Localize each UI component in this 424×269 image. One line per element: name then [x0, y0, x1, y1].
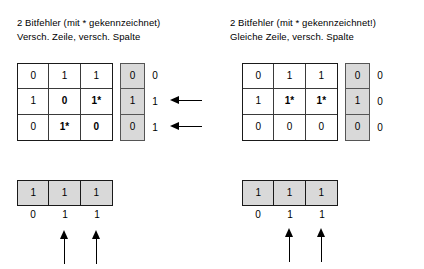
- matrix-cell-error: 1*: [81, 89, 112, 114]
- data-matrix-right: 0 1 1 1 1* 1* 0 0 0: [242, 63, 338, 141]
- column-parity-cell: 1: [274, 181, 305, 205]
- row-parity-computed-value: 1: [148, 89, 162, 115]
- row-parity-cell: 0: [121, 115, 144, 140]
- row-parity-computed-value: 0: [373, 63, 387, 89]
- matrix-cell-error: 1*: [49, 115, 80, 140]
- matrix-cell-error: 0: [49, 89, 80, 114]
- matrix-cell: 0: [274, 115, 305, 140]
- row-parity-cell: 1: [121, 89, 144, 114]
- row-parity-computed-left: 0 1 1: [148, 63, 162, 141]
- matrix-cell: 1: [243, 89, 274, 114]
- column-parity-computed-value: 1: [49, 208, 81, 222]
- caption-line-2: Versch. Zeile, versch. Spalte: [17, 30, 160, 44]
- column-parity-cell: 1: [49, 181, 80, 205]
- column-mismatch-arrow: [317, 228, 326, 262]
- arrow-shaft: [96, 236, 97, 264]
- matrix-cell: 0: [243, 64, 274, 89]
- panel-right: 2 Bitfehler (mit * gekennzeichnet!) Glei…: [212, 0, 424, 269]
- column-mismatch-arrow: [92, 230, 101, 264]
- matrix-cell: 1: [274, 64, 305, 89]
- caption-line-2: Gleiche Zeile, versch. Spalte: [230, 30, 376, 44]
- matrix-cell: 1: [49, 64, 80, 89]
- arrow-shaft: [64, 236, 65, 264]
- matrix-cell: 1: [81, 64, 112, 89]
- row-parity-column-right: 0 1 0: [345, 63, 370, 141]
- row-parity-column-left: 0 1 0: [120, 63, 145, 141]
- column-parity-cell: 1: [243, 181, 274, 205]
- row-parity-computed-right: 0 0 0: [373, 63, 387, 141]
- panel-left-caption: 2 Bitfehler (mit * gekennzeichnet) Versc…: [17, 16, 160, 44]
- matrix-cell: 1: [18, 89, 49, 114]
- row-parity-cell: 1: [346, 89, 369, 114]
- caption-line-1: 2 Bitfehler (mit * gekennzeichnet): [17, 16, 160, 30]
- arrow-shaft: [176, 100, 202, 101]
- column-mismatch-arrow: [60, 230, 69, 264]
- column-parity-computed-value: 0: [17, 208, 49, 222]
- matrix-cell: 0: [243, 115, 274, 140]
- column-parity-row-right: 1 1 1: [242, 180, 338, 206]
- column-parity-computed-left: 0 1 1: [17, 208, 113, 222]
- panel-left: 2 Bitfehler (mit * gekennzeichnet) Versc…: [0, 0, 212, 269]
- column-parity-computed-right: 0 1 1: [242, 208, 338, 222]
- matrix-cell-error: 1*: [306, 89, 337, 114]
- arrow-shaft: [289, 234, 290, 262]
- row-parity-cell: 0: [346, 64, 369, 89]
- caption-line-1: 2 Bitfehler (mit * gekennzeichnet!): [230, 16, 376, 30]
- column-parity-cell: 1: [81, 181, 112, 205]
- column-mismatch-arrow: [285, 228, 294, 262]
- row-mismatch-arrow: [170, 96, 202, 105]
- column-parity-computed-value: 1: [306, 208, 338, 222]
- matrix-cell: 0: [306, 115, 337, 140]
- row-parity-computed-value: 0: [373, 115, 387, 141]
- column-parity-cell: 1: [18, 181, 49, 205]
- row-parity-computed-value: 0: [148, 63, 162, 89]
- column-parity-computed-value: 1: [81, 208, 113, 222]
- row-parity-cell: 0: [346, 115, 369, 140]
- row-parity-computed-value: 0: [373, 89, 387, 115]
- row-mismatch-arrow: [170, 122, 202, 131]
- arrow-shaft: [321, 234, 322, 262]
- matrix-cell-error: 0: [81, 115, 112, 140]
- row-parity-cell: 0: [121, 64, 144, 89]
- column-parity-cell: 1: [306, 181, 337, 205]
- data-matrix-left: 0 1 1 1 0 1* 0 1* 0: [17, 63, 113, 141]
- panel-right-caption: 2 Bitfehler (mit * gekennzeichnet!) Glei…: [230, 16, 376, 44]
- column-parity-computed-value: 1: [274, 208, 306, 222]
- matrix-cell: 1: [306, 64, 337, 89]
- row-parity-computed-value: 1: [148, 115, 162, 141]
- column-parity-computed-value: 0: [242, 208, 274, 222]
- matrix-cell: 0: [18, 64, 49, 89]
- matrix-cell: 0: [18, 115, 49, 140]
- matrix-cell-error: 1*: [274, 89, 305, 114]
- arrow-shaft: [176, 126, 202, 127]
- column-parity-row-left: 1 1 1: [17, 180, 113, 206]
